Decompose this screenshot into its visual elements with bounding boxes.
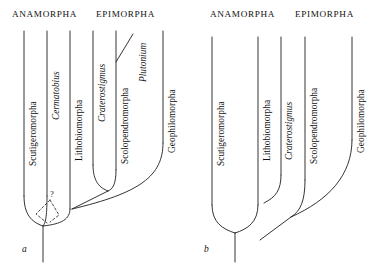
uncertain-node-dashes-right (50, 200, 59, 222)
taxon-label-geophilomorpha-b: Geophilomorpha (356, 89, 366, 153)
panel-a-letter: a (22, 244, 27, 254)
node-cermatobius-curve (43, 196, 47, 226)
epimorpha-backbone-b (260, 217, 291, 240)
panel-b-tree-lines (184, 0, 367, 275)
panel-a: ANAMORPHA EPIMORPHA (0, 0, 184, 275)
panel-a-uncertainty-marker: ? (50, 189, 54, 199)
node-scutigeromorpha-curve (24, 196, 43, 226)
taxon-label-lithobiomorpha-b: Lithobiomorpha (262, 100, 272, 161)
node-scutigeromorpha-curve-b (212, 205, 235, 233)
panel-b-letter: b (204, 244, 209, 254)
taxon-label-craterostigmus-b: Craterostigmus (284, 102, 294, 160)
cladogram-figure: ANAMORPHA EPIMORPHA (0, 0, 367, 275)
uncertain-node-dashes-left (36, 200, 50, 223)
node-lithobiomorpha-curve-b (235, 205, 258, 233)
lithobiomorpha-root-curve (43, 209, 70, 226)
node-scolopendromorpha-curve (108, 170, 116, 191)
taxon-label-scolopendromorpha-a: Scolopendromorpha (120, 88, 130, 164)
panel-b: ANAMORPHA EPIMORPHA Scutigeromorpha Lith… (184, 0, 367, 275)
taxon-label-craterostigmus-a: Craterostigmus (97, 64, 107, 122)
geophilomorpha-curve (72, 143, 163, 209)
craterostigmus-curve-b (264, 175, 281, 203)
taxon-label-scolopendromorpha-b: Scolopendromorpha (309, 88, 319, 164)
geophilomorpha-curve-b (291, 140, 352, 217)
node-craterostigmus-curve (93, 165, 108, 191)
branch-plutonium (116, 34, 133, 62)
taxon-label-geophilomorpha-a: Geophilomorpha (167, 89, 177, 153)
taxon-label-lithobiomorpha-a: Lithobiomorpha (74, 100, 84, 161)
epimorpha-stem (72, 191, 108, 209)
taxon-label-scutigeromorpha-a: Scutigeromorpha (28, 101, 38, 166)
taxon-label-cermatobius-a: Cermatobius (51, 71, 61, 120)
taxon-label-scutigeromorpha-b: Scutigeromorpha (216, 101, 226, 166)
taxon-label-plutonium-a: Plutonium (138, 43, 148, 82)
